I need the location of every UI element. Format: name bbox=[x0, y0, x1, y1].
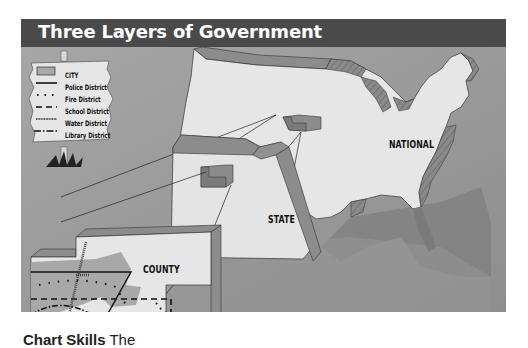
caption-text: The bbox=[109, 331, 135, 348]
diagram-title: Three Layers of Government bbox=[38, 21, 322, 42]
diagram-frame: Three Layers of Government bbox=[21, 19, 506, 312]
title-bar: Three Layers of Government bbox=[21, 19, 506, 47]
legend-label-police: Police District bbox=[65, 83, 107, 92]
caption: Chart Skills The bbox=[23, 331, 135, 348]
legend-label-fire: Fire District bbox=[65, 95, 101, 104]
legend-label-city: CITY bbox=[65, 71, 78, 80]
caption-bold: Chart Skills bbox=[23, 331, 106, 348]
legend-label-school: School District bbox=[65, 107, 109, 116]
state-label: STATE bbox=[268, 214, 295, 225]
legend-label-library: Library District bbox=[65, 131, 110, 140]
county-label: COUNTY bbox=[143, 264, 180, 275]
national-label: NATIONAL bbox=[389, 139, 434, 150]
legend-label-water: Water District bbox=[65, 119, 107, 128]
